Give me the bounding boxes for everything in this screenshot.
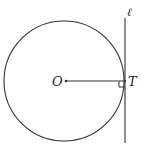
label-T: T: [128, 74, 138, 89]
label-line-l: ℓ: [127, 6, 132, 19]
tangent-diagram: O T ℓ: [0, 0, 146, 151]
tangent-point: [124, 80, 126, 82]
center-point: [65, 80, 68, 83]
label-O: O: [52, 74, 63, 89]
